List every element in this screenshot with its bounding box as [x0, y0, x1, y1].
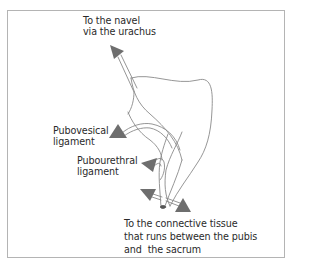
label-to-navel: To the navel via the urachus	[83, 15, 156, 37]
urethral-opening	[160, 206, 165, 209]
arrow-connective-left-icon	[140, 189, 156, 201]
label-pubovesical-ligament: Pubovesical ligament	[53, 125, 109, 147]
label-to-navel-line1: To the navel	[83, 15, 156, 26]
arrow-pubourethral-icon	[141, 158, 157, 172]
label-pubourethral-line1: Pubourethral	[77, 155, 138, 166]
bladder-outline	[131, 76, 212, 206]
label-pubourethral-line2: ligament	[77, 166, 138, 177]
label-pubourethral-ligament: Pubourethral ligament	[77, 155, 138, 177]
label-to-navel-line2: via the urachus	[83, 26, 156, 37]
label-connective-line1: To the connective tissue	[124, 217, 257, 230]
label-pubovesical-line1: Pubovesical	[53, 125, 109, 136]
label-connective-tissue: To the connective tissue that runs betwe…	[124, 217, 257, 256]
label-connective-line3: and the sacrum	[124, 243, 257, 256]
label-connective-line2: that runs between the pubis	[124, 230, 257, 243]
label-pubovesical-line2: ligament	[53, 136, 109, 147]
